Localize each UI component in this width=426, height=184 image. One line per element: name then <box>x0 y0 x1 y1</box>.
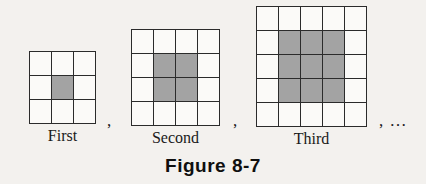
grid-cell <box>132 102 153 125</box>
grid-cell <box>279 7 300 30</box>
grid-cell <box>74 52 95 75</box>
grid-cell <box>30 52 51 75</box>
grid-label-first: First <box>48 127 77 145</box>
grid-cell-shaded <box>176 54 197 77</box>
grid-cell <box>301 7 322 30</box>
grid-cell <box>132 30 153 53</box>
grid-cell <box>176 30 197 53</box>
grid-cell <box>301 103 322 126</box>
grid-cell <box>257 55 278 78</box>
grid-label-second: Second <box>152 129 199 147</box>
grid-cell <box>52 100 73 123</box>
grid-cell-shaded <box>301 79 322 102</box>
separator-comma-first: , <box>107 112 111 129</box>
separator-ellipsis: , … <box>379 112 408 129</box>
grid-cell <box>198 102 219 125</box>
sequence-term-second: Second <box>131 29 220 147</box>
separator-comma-second: , <box>233 112 237 129</box>
grid-cell <box>345 79 366 102</box>
grid-cell <box>257 103 278 126</box>
grid-cell-shaded <box>323 79 344 102</box>
sequence-term-first: First <box>29 51 96 145</box>
grid-cell-shaded <box>154 54 175 77</box>
grid-cell <box>198 30 219 53</box>
grid-cell <box>154 102 175 125</box>
grid-cell-shaded <box>154 78 175 101</box>
grid-cell <box>257 31 278 54</box>
grid-cell-shaded <box>279 31 300 54</box>
grid-cell <box>74 100 95 123</box>
grid-cell <box>345 103 366 126</box>
grid-cell <box>30 100 51 123</box>
grid-cell <box>345 31 366 54</box>
grid-cell-shaded <box>52 76 73 99</box>
grid-cell <box>74 76 95 99</box>
grid-cell <box>132 78 153 101</box>
grid-cell-shaded <box>279 55 300 78</box>
grid-cell-shaded <box>323 31 344 54</box>
grid-cell-shaded <box>301 55 322 78</box>
figure-8-7: First , Second , <box>0 0 426 184</box>
grid-first <box>29 51 96 124</box>
grid-cell-shaded <box>301 31 322 54</box>
grid-cell-shaded <box>279 79 300 102</box>
grid-second <box>131 29 220 126</box>
grid-cell <box>154 30 175 53</box>
grid-cell <box>257 7 278 30</box>
grid-cell <box>257 79 278 102</box>
grid-cell <box>323 103 344 126</box>
grid-cell <box>345 55 366 78</box>
grid-cell <box>52 52 73 75</box>
grid-label-third: Third <box>294 130 330 148</box>
grid-cell-shaded <box>176 78 197 101</box>
figure-caption: Figure 8-7 <box>0 155 426 177</box>
grid-cell-shaded <box>323 55 344 78</box>
grid-cell <box>198 78 219 101</box>
grid-cell <box>198 54 219 77</box>
grid-cell <box>345 7 366 30</box>
grid-third <box>256 6 367 127</box>
grid-cell <box>323 7 344 30</box>
grid-cell <box>132 54 153 77</box>
grid-cell <box>279 103 300 126</box>
grid-cell <box>176 102 197 125</box>
grid-cell <box>30 76 51 99</box>
sequence-term-third: Third <box>256 6 367 148</box>
